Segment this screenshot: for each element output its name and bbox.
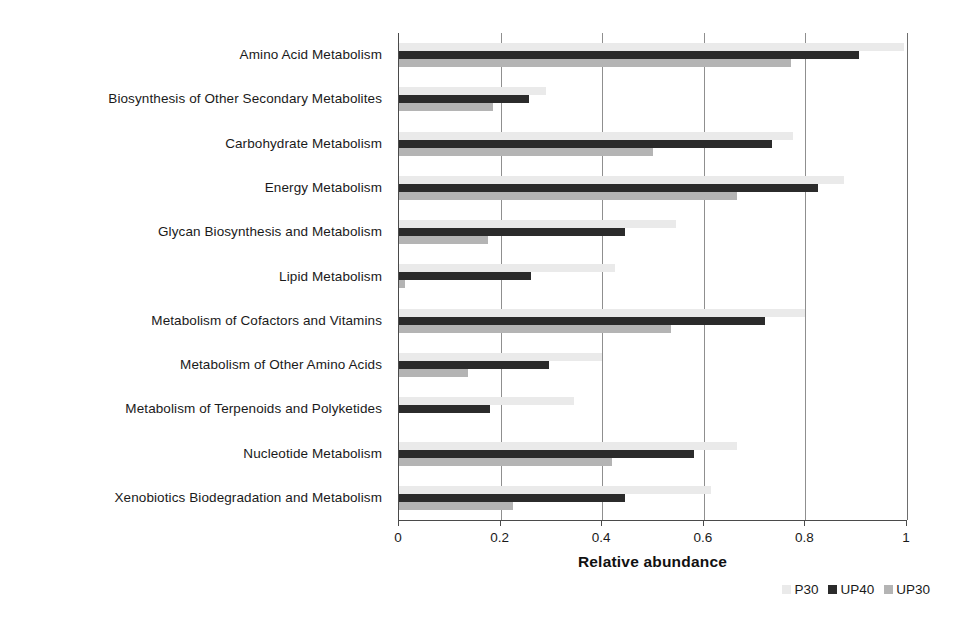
bar-up40 (399, 317, 765, 325)
x-tick-mark (906, 520, 907, 526)
bar-group (399, 431, 907, 475)
x-tick-label: 0.2 (490, 530, 509, 545)
bar-up40 (399, 184, 818, 192)
bar-up40 (399, 272, 531, 280)
y-axis-label: Carbohydrate Metabolism (0, 137, 382, 151)
y-axis-label: Metabolism of Other Amino Acids (0, 358, 382, 372)
bar-p30 (399, 353, 602, 361)
y-axis-label: Amino Acid Metabolism (0, 48, 382, 62)
bar-rows (399, 33, 907, 520)
bar-up30 (399, 103, 493, 111)
bar-up40 (399, 405, 490, 413)
bar-chart-figure: Amino Acid MetabolismBiosynthesis of Oth… (0, 0, 956, 621)
x-tick-label: 0 (394, 530, 402, 545)
bar-p30 (399, 87, 546, 95)
plot-area (398, 33, 908, 520)
bar-group (399, 210, 907, 254)
bar-up30 (399, 369, 468, 377)
y-axis-label: Lipid Metabolism (0, 270, 382, 284)
bar-up30 (399, 280, 405, 288)
bar-group (399, 254, 907, 298)
x-tick-label: 0.8 (795, 530, 814, 545)
legend-swatch-icon (828, 585, 837, 594)
bar-group (399, 476, 907, 520)
bar-up30 (399, 458, 612, 466)
legend-swatch-icon (884, 585, 893, 594)
bar-p30 (399, 309, 805, 317)
bar-p30 (399, 176, 844, 184)
x-axis-line (398, 520, 907, 521)
x-tick-label: 1 (902, 530, 910, 545)
y-axis-label: Metabolism of Terpenoids and Polyketides (0, 402, 382, 416)
bar-group (399, 343, 907, 387)
x-axis-title: Relative abundance (398, 553, 907, 571)
bar-up40 (399, 140, 772, 148)
legend-item-up30: UP30 (884, 583, 930, 597)
x-tick-mark (500, 520, 501, 526)
bar-up30 (399, 502, 513, 510)
x-tick-label: 0.4 (592, 530, 611, 545)
bar-p30 (399, 132, 793, 140)
x-tick-label: 0.6 (693, 530, 712, 545)
y-axis-label: Xenobiotics Biodegradation and Metabolis… (0, 491, 382, 505)
x-tick-mark (398, 520, 399, 526)
legend-label: P30 (794, 583, 818, 597)
y-axis-label: Metabolism of Cofactors and Vitamins (0, 314, 382, 328)
legend-label: UP30 (896, 583, 930, 597)
bar-up40 (399, 450, 694, 458)
y-axis-label: Nucleotide Metabolism (0, 447, 382, 461)
legend-item-p30: P30 (782, 583, 818, 597)
bar-group (399, 387, 907, 431)
y-axis-label: Biosynthesis of Other Secondary Metaboli… (0, 92, 382, 106)
bar-up30 (399, 236, 488, 244)
x-tick-mark (703, 520, 704, 526)
bar-p30 (399, 220, 676, 228)
bar-up40 (399, 228, 625, 236)
bar-group (399, 77, 907, 121)
legend-item-up40: UP40 (828, 583, 874, 597)
legend-swatch-icon (782, 585, 791, 594)
bar-p30 (399, 264, 615, 272)
x-tick-mark (804, 520, 805, 526)
bar-up30 (399, 59, 791, 67)
bar-up30 (399, 325, 671, 333)
bar-p30 (399, 486, 711, 494)
bar-up30 (399, 148, 653, 156)
bar-up30 (399, 192, 737, 200)
bar-group (399, 33, 907, 77)
y-axis-label: Energy Metabolism (0, 181, 382, 195)
bar-p30 (399, 397, 574, 405)
bar-p30 (399, 442, 737, 450)
y-axis-label: Glycan Biosynthesis and Metabolism (0, 225, 382, 239)
bar-group (399, 166, 907, 210)
bar-up40 (399, 361, 549, 369)
bar-group (399, 122, 907, 166)
bar-up40 (399, 51, 859, 59)
y-axis-labels: Amino Acid MetabolismBiosynthesis of Oth… (0, 33, 390, 520)
bar-p30 (399, 43, 904, 51)
x-tick-mark (601, 520, 602, 526)
chart-legend: P30UP40UP30 (700, 583, 930, 597)
bar-up40 (399, 95, 529, 103)
legend-label: UP40 (840, 583, 874, 597)
bar-group (399, 299, 907, 343)
bar-up40 (399, 494, 625, 502)
